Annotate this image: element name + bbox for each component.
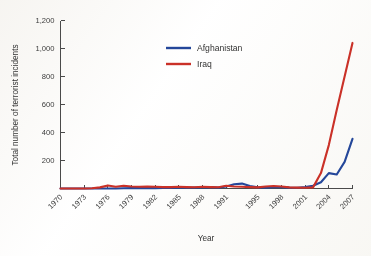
x-tick-label: 1985 bbox=[164, 193, 182, 211]
x-tick-label: 1979 bbox=[117, 193, 135, 211]
x-tick-label: 2001 bbox=[291, 193, 309, 211]
chart-legend: AfghanistanIraq bbox=[166, 43, 243, 69]
y-axis-tick-labels: 2004006008001,0001,200 bbox=[35, 16, 54, 165]
series-line-afghanistan bbox=[61, 139, 353, 189]
y-tick-label: 1,200 bbox=[35, 16, 54, 25]
x-tick-label: 1982 bbox=[141, 193, 159, 211]
chart-figure: 2004006008001,0001,200 19701973197619791… bbox=[0, 0, 371, 256]
x-tick-label: 1988 bbox=[188, 193, 206, 211]
x-tick-label: 1973 bbox=[70, 193, 88, 211]
y-tick-label: 600 bbox=[42, 100, 55, 109]
x-tick-label: 1991 bbox=[212, 193, 230, 211]
x-tick-label: 1970 bbox=[46, 193, 64, 211]
x-tick-label: 1995 bbox=[243, 193, 261, 211]
x-tick-label: 1976 bbox=[93, 193, 111, 211]
x-tick-label: 2004 bbox=[314, 193, 332, 211]
x-axis-tick-labels: 1970197319761979198219851988199119951998… bbox=[46, 193, 356, 211]
y-tick-label: 1,000 bbox=[35, 44, 54, 53]
line-chart: 2004006008001,0001,200 19701973197619791… bbox=[0, 0, 371, 256]
x-tick-label: 2007 bbox=[338, 193, 356, 211]
x-tick-label: 1998 bbox=[267, 193, 285, 211]
y-axis-title: Total number of terrorist incidents bbox=[11, 44, 20, 165]
y-tick-label: 400 bbox=[42, 128, 55, 137]
x-axis-title: Year bbox=[198, 234, 215, 243]
legend-label-afghanistan: Afghanistan bbox=[197, 43, 243, 53]
legend-label-iraq: Iraq bbox=[197, 59, 212, 69]
y-tick-label: 200 bbox=[42, 156, 55, 165]
y-axis-ticks bbox=[61, 21, 65, 161]
y-tick-label: 800 bbox=[42, 72, 55, 81]
